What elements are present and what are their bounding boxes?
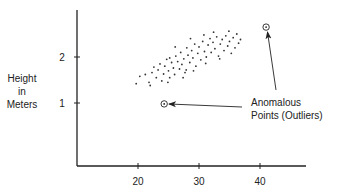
data-point [210, 52, 212, 54]
data-point [173, 67, 175, 69]
y-tick-label-1: 1 [59, 98, 65, 109]
data-point [174, 46, 176, 48]
outlier-point [265, 26, 267, 28]
data-point [197, 52, 199, 54]
data-point [209, 38, 211, 40]
data-point [238, 42, 240, 44]
data-point [169, 57, 171, 59]
data-point [135, 83, 137, 85]
data-point [180, 52, 182, 54]
data-point [240, 39, 242, 41]
data-point [144, 74, 146, 76]
data-point [177, 61, 179, 63]
data-point [148, 81, 150, 83]
data-point [204, 51, 206, 53]
data-point [191, 50, 193, 52]
data-point [149, 85, 151, 87]
data-point [174, 74, 176, 76]
y-axis-label-line-3: Meters [7, 99, 38, 110]
data-point [213, 31, 215, 33]
data-point [203, 34, 205, 36]
data-point [219, 58, 221, 60]
data-point [227, 45, 229, 47]
x-tick-label-20: 20 [132, 176, 144, 187]
data-point [163, 73, 165, 75]
y-axis-label-line-2: in [18, 86, 26, 97]
data-point [219, 43, 221, 45]
x-tick-label-30: 30 [193, 176, 205, 187]
y-tick-label-2: 2 [59, 52, 65, 63]
data-point [225, 35, 227, 37]
data-point [205, 56, 207, 58]
data-point [207, 44, 209, 46]
data-point [181, 64, 183, 66]
data-point [218, 55, 220, 57]
data-point [139, 75, 141, 77]
data-point [192, 57, 194, 59]
data-point [216, 36, 218, 38]
data-point [205, 63, 207, 65]
data-point [153, 66, 155, 68]
data-point [190, 38, 192, 40]
y-axis-label-line-1: Height [8, 73, 37, 84]
outlier-point [163, 103, 165, 105]
data-point [185, 69, 187, 71]
data-point [195, 65, 197, 67]
scatter-points [135, 30, 241, 86]
data-point [232, 37, 234, 39]
data-point [155, 77, 157, 79]
data-point [184, 72, 186, 74]
data-point [171, 62, 173, 64]
data-point [187, 54, 189, 56]
data-point [221, 39, 223, 41]
annotation-line-2: Points (Outliers) [251, 110, 323, 121]
arrow-to-upper-outlier [268, 32, 277, 90]
data-point [157, 69, 159, 71]
data-point [236, 33, 238, 35]
data-point [228, 30, 230, 32]
data-point [167, 81, 169, 83]
data-point [223, 50, 225, 52]
data-point [161, 80, 163, 82]
data-point [198, 46, 200, 48]
data-point [179, 68, 181, 70]
data-point [214, 48, 216, 50]
data-point [193, 70, 195, 72]
data-point [175, 55, 177, 57]
data-point [183, 58, 185, 60]
outlier-points [161, 24, 269, 107]
data-point [166, 58, 168, 60]
x-tick-label-40: 40 [254, 176, 266, 187]
data-point [159, 63, 161, 65]
data-point [151, 72, 153, 74]
data-point [182, 77, 184, 79]
data-point [164, 65, 166, 67]
data-point [212, 41, 214, 43]
data-point [200, 59, 202, 61]
data-point [168, 70, 170, 72]
scatter-chart: 2 1 20 30 40 Height in Meters Anomalous … [0, 0, 342, 191]
data-point [234, 47, 236, 49]
data-point [169, 77, 171, 79]
data-point [186, 47, 188, 49]
annotation-line-1: Anomalous [251, 97, 301, 108]
data-point [229, 41, 231, 43]
data-point [202, 41, 204, 43]
data-point [230, 52, 232, 54]
data-point [194, 43, 196, 45]
data-point [189, 62, 191, 64]
arrow-to-lower-outlier [169, 104, 242, 107]
